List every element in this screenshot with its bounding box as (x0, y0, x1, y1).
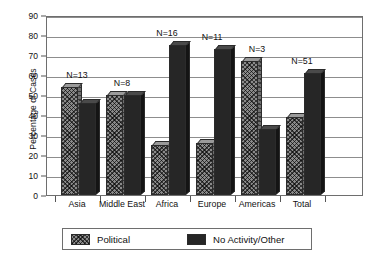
bar-face (304, 73, 321, 195)
y-axis-tick-label: 70 (29, 51, 38, 61)
legend-swatch-icon (187, 234, 206, 245)
bar-middle-east-political (106, 95, 123, 195)
bar-asia-political (61, 87, 78, 195)
y-axis-tick-label: 50 (29, 91, 38, 101)
y-axis-tick-label: 30 (29, 131, 38, 141)
bar-face (286, 117, 303, 195)
gridline (47, 57, 362, 58)
y-axis-tick-label: 0 (33, 191, 38, 201)
y-axis-tick-mark (41, 116, 46, 117)
bar-americas-no-activity-other (259, 129, 276, 195)
y-axis-title: Percentage of Cases (28, 24, 38, 194)
y-axis-tick-mark (41, 36, 46, 37)
bar-face (151, 145, 168, 195)
y-axis-tick-mark (41, 76, 46, 77)
bar-chart: Percentage of Cases 0102030405060708090 … (0, 0, 375, 261)
y-axis-tick-mark (41, 176, 46, 177)
n-annotation-europe: N=11 (202, 32, 223, 42)
bar-face (241, 61, 258, 195)
plot-area (46, 16, 363, 196)
bar-face (79, 103, 96, 195)
y-axis-tick-mark (41, 16, 46, 17)
plot-inner (47, 17, 362, 195)
y-axis-tick-label: 90 (29, 11, 38, 21)
bar-face (61, 87, 78, 195)
y-axis-tick-label: 60 (29, 71, 38, 81)
bar-asia-no-activity-other (79, 103, 96, 195)
x-axis-tick-mark (190, 196, 191, 202)
x-axis-label-middle-east: Middle East (99, 199, 145, 209)
legend-item-no-activity-other: No Activity/Other (187, 233, 284, 246)
bar-side (186, 41, 190, 194)
x-axis-tick-mark (280, 196, 281, 202)
y-axis-tick-label: 80 (29, 31, 38, 41)
bar-face (214, 49, 231, 195)
x-axis-tick-mark (55, 196, 56, 202)
bar-total-no-activity-other (304, 73, 321, 195)
bar-europe-political (196, 143, 213, 195)
x-axis-label-asia: Asia (68, 199, 85, 209)
legend-label: No Activity/Other (213, 234, 284, 245)
bar-side (276, 125, 280, 194)
n-annotation-africa: N=16 (156, 28, 177, 38)
n-annotation-asia: N=13 (66, 70, 87, 80)
legend-swatch-icon (71, 234, 90, 245)
y-axis-tick-mark (41, 156, 46, 157)
bar-side (321, 69, 325, 194)
x-axis-label-total: Total (293, 199, 312, 209)
bar-face (196, 143, 213, 195)
legend: Political No Activity/Other (62, 228, 312, 250)
n-annotation-middle-east: N=8 (114, 78, 130, 88)
y-axis-tick-mark (41, 96, 46, 97)
bar-side (96, 99, 100, 194)
y-axis-tick-label: 40 (29, 111, 38, 121)
bar-face (169, 45, 186, 195)
bar-face (259, 129, 276, 195)
bar-face (124, 95, 141, 195)
x-axis-label-americas: Americas (239, 199, 276, 209)
bar-africa-political (151, 145, 168, 195)
bar-side (141, 91, 145, 194)
bar-africa-no-activity-other (169, 45, 186, 195)
x-axis-label-africa: Africa (156, 199, 179, 209)
y-axis-tick-label: 20 (29, 151, 38, 161)
bar-face (106, 95, 123, 195)
n-annotation-americas: N=3 (249, 44, 265, 54)
bar-total-political (286, 117, 303, 195)
y-axis-tick-mark (41, 56, 46, 57)
x-axis-tick-mark (325, 196, 326, 202)
x-axis-tick-mark (145, 196, 146, 202)
y-axis-tick-label: 10 (29, 171, 38, 181)
n-annotation-total: N=51 (291, 56, 312, 66)
x-axis-tick-mark (235, 196, 236, 202)
y-axis-tick-mark (41, 136, 46, 137)
bar-middle-east-no-activity-other (124, 95, 141, 195)
legend-label: Political (97, 234, 130, 245)
gridline (47, 17, 362, 18)
bar-americas-political (241, 61, 258, 195)
bar-side (231, 45, 235, 194)
x-axis-label-europe: Europe (198, 199, 226, 209)
y-axis-tick-mark (41, 196, 46, 197)
legend-item-political: Political (71, 233, 130, 246)
bar-europe-no-activity-other (214, 49, 231, 195)
